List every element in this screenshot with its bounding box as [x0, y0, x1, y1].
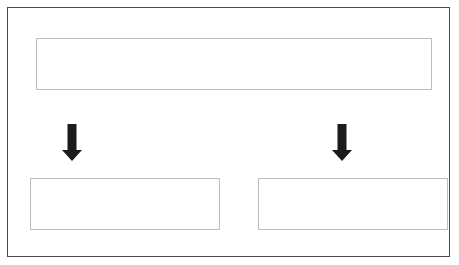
- left-segment-labels: [31, 180, 219, 192]
- top-plot-area: [36, 38, 432, 90]
- chart-exports-and-losses: [30, 178, 220, 258]
- chart-final-consumption: [258, 178, 448, 258]
- right-segment-labels: [259, 180, 447, 192]
- left-plot-area: [30, 178, 220, 230]
- chart-indigenous-production: [36, 38, 432, 120]
- left-stacked-bar: [31, 192, 219, 224]
- top-segment-labels: [37, 41, 431, 57]
- down-arrow-final-consumption: [330, 124, 354, 164]
- right-plot-area: [258, 178, 448, 230]
- figure-frame: [7, 7, 450, 257]
- energy-flow-figure: [0, 0, 459, 265]
- down-arrow-exports: [60, 124, 84, 164]
- top-stacked-bar: [37, 58, 431, 90]
- right-stacked-bar: [259, 192, 447, 224]
